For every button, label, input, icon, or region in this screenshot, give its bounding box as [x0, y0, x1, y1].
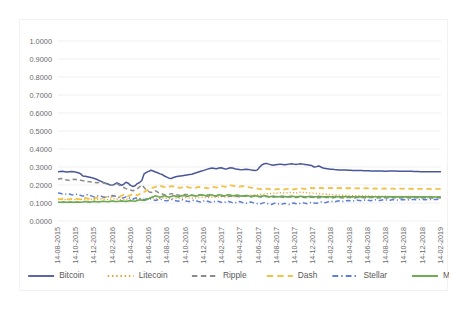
legend-label-litecoin[interactable]: Litecoin — [139, 270, 168, 280]
x-axis-tick-label: 14-02-2016 — [108, 227, 117, 264]
x-axis-tick-label: 14-10-2016 — [181, 227, 190, 264]
legend-label-dash[interactable]: Dash — [298, 270, 318, 280]
y-axis-tick-label: 0.3000 — [29, 163, 52, 172]
line-chart[interactable]: 0.00000.10000.20000.30000.40000.50000.60… — [20, 20, 449, 292]
x-axis-tick-label: 14-04-2016 — [126, 227, 135, 264]
x-axis-tick-label: 14-12-2017 — [308, 227, 317, 264]
gridlines — [58, 41, 441, 221]
x-axis-tick-label: 14-08-2016 — [162, 227, 171, 264]
y-axis-tick-label: 0.5000 — [29, 127, 52, 136]
legend-label-bitcoin[interactable]: Bitcoin — [59, 270, 84, 280]
x-axis-tick-label: 14-04-2017 — [235, 227, 244, 264]
x-axis-tick-label: 14-12-2015 — [89, 227, 98, 264]
y-axis-tick-label: 0.7000 — [29, 91, 52, 100]
x-axis-tick-label: 14-02-2019 — [436, 227, 445, 264]
legend-label-stellar[interactable]: Stellar — [363, 270, 387, 280]
chart-plot-area[interactable]: 0.00000.10000.20000.30000.40000.50000.60… — [20, 20, 449, 292]
chart-legend[interactable]: BitcoinLitecoinRippleDashStellarMonero — [28, 270, 449, 280]
x-axis-tick-label: 14-02-2017 — [217, 227, 226, 264]
y-axis-tick-label: 0.8000 — [29, 73, 52, 82]
y-axis-tick-label: 0.2000 — [29, 181, 52, 190]
x-axis-tick-label: 14-08-2017 — [272, 227, 281, 264]
y-axis-tick-label: 1.0000 — [29, 37, 52, 46]
x-axis-tick-label: 14-08-2018 — [381, 227, 390, 264]
y-axis-tick-label: 0.4000 — [29, 145, 52, 154]
y-axis-tick-label: 0.6000 — [29, 109, 52, 118]
x-axis-tick-label: 14-10-2017 — [290, 227, 299, 264]
x-axis-tick-label: 14-06-2018 — [363, 227, 372, 264]
x-axis-tick-label: 14-12-2018 — [418, 227, 427, 264]
x-axis-tick-label: 14-12-2016 — [199, 227, 208, 264]
x-axis-tick-label: 14-08-2015 — [53, 227, 62, 264]
chart-card: 0.00000.10000.20000.30000.40000.50000.60… — [19, 19, 448, 291]
y-axis-tick-label: 0.1000 — [29, 199, 52, 208]
y-axis-tick-label: 0.9000 — [29, 55, 52, 64]
x-axis-tick-label: 14-06-2016 — [144, 227, 153, 264]
series-lines — [58, 163, 441, 204]
x-axis-tick-label: 14-10-2018 — [399, 227, 408, 264]
y-axis-tick-labels: 0.00000.10000.20000.30000.40000.50000.60… — [29, 37, 52, 226]
x-axis-tick-label: 14-02-2018 — [326, 227, 335, 264]
x-axis-tick-label: 14-04-2018 — [345, 227, 354, 264]
y-axis-tick-label: 0.0000 — [29, 217, 52, 226]
x-axis-tick-labels: 14-08-201514-10-201514-12-201514-02-2016… — [53, 227, 445, 264]
x-axis-tick-label: 14-06-2017 — [254, 227, 263, 264]
legend-label-monero[interactable]: Monero — [443, 270, 449, 280]
x-axis-tick-label: 14-10-2015 — [71, 227, 80, 264]
legend-label-ripple[interactable]: Ripple — [223, 270, 247, 280]
